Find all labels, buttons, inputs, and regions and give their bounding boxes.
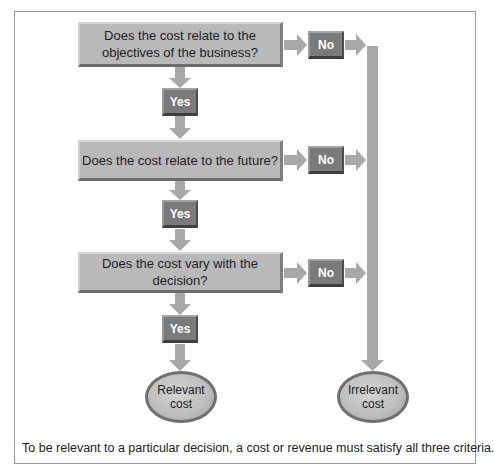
question-box-objectives: Does the cost relate to the objectives o… <box>78 22 283 67</box>
no-box-3: No <box>308 259 344 287</box>
figure-caption: To be relevant to a particular decision,… <box>22 441 494 455</box>
no-box-1: No <box>308 31 344 59</box>
question-3-text: Does the cost vary with the decision? <box>80 255 280 289</box>
question-2-text: Does the cost relate to the future? <box>82 152 278 169</box>
no-label: No <box>318 153 334 167</box>
question-box-vary: Does the cost vary with the decision? <box>78 252 283 293</box>
outcome-relevant-cost: Relevant cost <box>145 371 217 423</box>
relevant-cost-label: Relevant cost <box>148 383 214 411</box>
question-1-line-1: Does the cost relate to the <box>104 27 256 44</box>
question-1-line-2: objectives of the business? <box>102 44 258 61</box>
yes-box-1: Yes <box>162 88 198 116</box>
yes-box-3: Yes <box>162 315 198 343</box>
irrelevant-cost-label: Irrelevant cost <box>340 383 406 411</box>
no-box-2: No <box>308 146 344 174</box>
arrows-layer <box>0 0 494 474</box>
yes-label: Yes <box>170 95 191 109</box>
yes-box-2: Yes <box>162 200 198 228</box>
yes-label: Yes <box>170 322 191 336</box>
question-box-future: Does the cost relate to the future? <box>78 140 283 181</box>
no-label: No <box>318 266 334 280</box>
no-label: No <box>318 38 334 52</box>
yes-label: Yes <box>170 207 191 221</box>
outcome-irrelevant-cost: Irrelevant cost <box>337 371 409 423</box>
